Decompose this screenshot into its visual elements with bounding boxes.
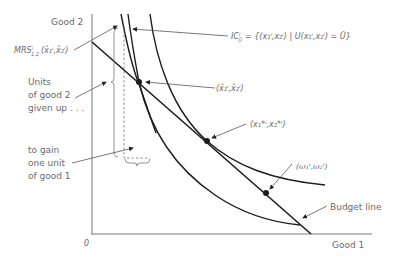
point-xhat-label: (x̂₁ⁱ,x̂₂ⁱ) (216, 83, 244, 93)
mrs-leader (74, 26, 117, 50)
units-leader (75, 82, 106, 98)
steep-line-through-xhat (121, 14, 156, 133)
y-axis-label: Good 2 (51, 17, 83, 27)
units-brace (111, 28, 118, 157)
edgeworth-indifference-diagram: Good 2 Good 1 0 MRSi1,2(x̂₁ⁱ,x̂₂ⁱ) ICiŪ=… (0, 0, 396, 261)
budget-leader (303, 206, 327, 218)
point-xstar (204, 138, 210, 144)
xhat-leader (146, 82, 215, 88)
gain-leader (72, 148, 133, 163)
x-axis-label: Good 1 (332, 240, 364, 250)
units-label-2: of good 2 (28, 90, 71, 100)
gain-brace (125, 159, 150, 166)
mrs-label: MRSi1,2(x̂₁ⁱ,x̂₂ⁱ) (14, 45, 68, 57)
gain-label-3: of good 1 (28, 171, 71, 181)
point-omega-label: (ω₁ⁱ,ω₂ⁱ) (296, 162, 327, 171)
gain-label-2: one unit (28, 158, 66, 168)
origin-label: 0 (84, 239, 89, 248)
gain-label-1: to gain (28, 145, 59, 155)
xstar-leader (212, 124, 246, 138)
point-xhat (136, 79, 142, 85)
point-omega (263, 190, 269, 196)
units-label-3: given up . . . (28, 103, 84, 113)
point-xstar-label: (x₁*ⁱ,x₂*ⁱ) (250, 120, 286, 129)
ic-leader (133, 29, 228, 36)
budget-line (92, 42, 311, 234)
indifference-set-label: ICiŪ= {(x₁ⁱ,x₂ⁱ) | U(x₁ⁱ,x₂ⁱ) = Ū} (231, 31, 351, 43)
budget-line-label: Budget line (330, 202, 382, 212)
units-label-1: Units (28, 77, 51, 87)
